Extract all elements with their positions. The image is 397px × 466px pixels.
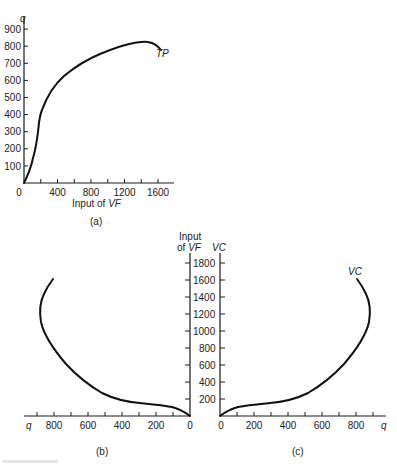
tick-label: 0: [16, 187, 22, 198]
shared-y-axis-title-line1: Input: [179, 231, 201, 242]
panel-c-caption: (c): [292, 446, 304, 457]
tick-label: 900: [4, 24, 21, 35]
tp-curve-label: TP: [156, 48, 169, 59]
tick-label: 600: [80, 420, 97, 431]
shared-y-tick-labels: 1800 1600 1400 1200 1000 800 600 400 200: [193, 258, 216, 405]
tick-label: 800: [199, 343, 216, 354]
tick-label: 600: [314, 420, 331, 431]
tick-label: 500: [4, 92, 21, 103]
tick-label: 400: [49, 187, 66, 198]
tick-label: 700: [4, 58, 21, 69]
panel-a-caption: (a): [90, 216, 102, 227]
tick-label: 800: [348, 420, 365, 431]
panel-b-x-axis-label: q: [26, 420, 32, 431]
tick-label: 400: [4, 109, 21, 120]
panel-b: 800 600 400 200 0 q (b): [24, 253, 193, 457]
panel-b-x-ticks: 800 600 400 200 0: [37, 412, 193, 431]
panel-c-y-ticks: [220, 263, 225, 399]
figure-canvas: q 100 200 300 400 500 600 700 800 900: [0, 0, 397, 466]
tick-label: 800: [83, 187, 100, 198]
tick-label: 200: [199, 394, 216, 405]
vc-curve-label: VC: [348, 266, 363, 277]
tick-label: 100: [4, 161, 21, 172]
tick-label: 600: [199, 360, 216, 371]
panel-a-x-ticks: 0 400 800 1200 1600: [16, 179, 169, 198]
tick-label: 400: [199, 377, 216, 388]
panel-b-y-ticks: [185, 263, 190, 399]
tick-label: 400: [114, 420, 131, 431]
panel-c-x-ticks: 0 200 400 600 800: [218, 412, 373, 431]
shared-axis-titles: Input of VF VC: [177, 231, 227, 253]
shared-y-axis-title-line2: of VF: [177, 242, 202, 253]
tick-label: 600: [4, 75, 21, 86]
tick-label: 1800: [193, 258, 216, 269]
panel-c-y-axis-label: VC: [212, 242, 227, 253]
panel-b-curve: [40, 279, 190, 416]
tick-label: 200: [246, 420, 263, 431]
tick-label: 200: [148, 420, 165, 431]
panel-c: 1800 1600 1400 1200 1000 800 600 400 200…: [193, 253, 387, 457]
tp-curve: [24, 42, 161, 183]
figure-caption-fragment: [2, 460, 58, 463]
panel-a-x-axis-label: Input of VF: [72, 198, 122, 209]
panel-b-caption: (b): [96, 446, 108, 457]
panel-c-x-axis-label: q: [381, 420, 387, 431]
tick-label: 800: [46, 420, 63, 431]
tick-label: 800: [4, 41, 21, 52]
tick-label: 400: [280, 420, 297, 431]
tick-label: 0: [187, 420, 193, 431]
panel-a-y-axis-label: q: [20, 13, 26, 24]
tick-label: 200: [4, 143, 21, 154]
vc-curve: [220, 279, 370, 416]
tick-label: 1200: [193, 309, 216, 320]
tick-label: 0: [218, 420, 224, 431]
tick-label: 1000: [193, 326, 216, 337]
tick-label: 1600: [147, 187, 170, 198]
tick-label: 1600: [193, 275, 216, 286]
tick-label: 300: [4, 126, 21, 137]
panel-a: q 100 200 300 400 500 600 700 800 900: [4, 13, 174, 227]
tick-label: 1400: [193, 292, 216, 303]
tick-label: 1200: [113, 187, 136, 198]
